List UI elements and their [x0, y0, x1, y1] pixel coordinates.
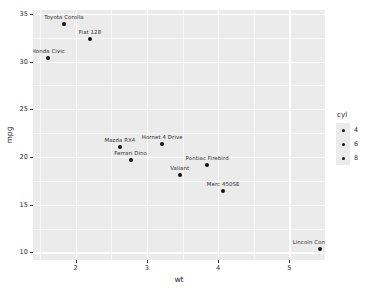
x-tick-label: 4	[216, 264, 220, 272]
data-point	[118, 145, 122, 149]
x-tick-mark	[218, 260, 219, 263]
gridline-major-y	[33, 157, 325, 158]
data-point	[62, 22, 66, 26]
data-point	[221, 189, 225, 193]
data-point	[318, 247, 322, 251]
y-tick-mark	[30, 109, 33, 110]
legend-dot-icon	[342, 129, 345, 132]
x-tick-mark	[76, 260, 77, 263]
legend-key-swatch	[336, 137, 350, 151]
x-tick-mark	[147, 260, 148, 263]
legend-entry-label: 6	[354, 140, 358, 148]
x-axis-title: wt	[33, 275, 325, 284]
data-point-label: Lincoln Continental	[293, 239, 325, 245]
y-axis-title: mpg	[5, 126, 14, 143]
plot-panel: Toyota CorollaFiat 128Honda CivicMazda R…	[33, 10, 325, 260]
data-point	[160, 142, 164, 146]
legend-dot-icon	[342, 143, 345, 146]
gridline-minor-x	[111, 10, 112, 260]
gridline-major-x	[218, 10, 219, 260]
legend-entry: 6	[336, 137, 358, 151]
x-tick-label: 3	[145, 264, 149, 272]
gridline-minor-x	[254, 10, 255, 260]
gridline-major-y	[33, 109, 325, 110]
legend-entry-label: 8	[354, 154, 358, 162]
y-tick-mark	[30, 14, 33, 15]
gridline-major-y	[33, 252, 325, 253]
legend-key-swatch	[336, 151, 350, 165]
data-point	[129, 158, 133, 162]
x-tick-label: 5	[287, 264, 291, 272]
y-tick-mark	[30, 205, 33, 206]
y-tick-label: 10	[20, 248, 28, 256]
y-tick-label: 30	[20, 58, 28, 66]
data-point	[205, 163, 209, 167]
legend-title: cyl	[336, 110, 358, 119]
legend-key-swatch	[336, 123, 350, 137]
data-point-label: Valiant	[170, 165, 189, 171]
y-tick-label: 20	[20, 153, 28, 161]
data-point-label: Ferrari Dino	[114, 150, 147, 156]
y-tick-mark	[30, 157, 33, 158]
data-point-label: Pontiac Firebird	[186, 155, 229, 161]
scatter-plot: Toyota CorollaFiat 128Honda CivicMazda R…	[0, 0, 377, 288]
data-point-label: Fiat 128	[79, 29, 101, 35]
legend: cyl 468	[336, 110, 358, 165]
x-tick-label: 2	[74, 264, 78, 272]
y-tick-label: 35	[20, 10, 28, 18]
gridline-major-y	[33, 62, 325, 63]
data-point-label: Merc 450SE	[207, 181, 240, 187]
legend-dot-icon	[342, 157, 345, 160]
data-point	[88, 37, 92, 41]
legend-entry-label: 4	[354, 126, 358, 134]
data-point-label: Mazda RX4	[104, 137, 135, 143]
y-tick-label: 25	[20, 105, 28, 113]
gridline-major-x	[289, 10, 290, 260]
data-point-label: Hornet 4 Drive	[142, 134, 183, 140]
data-point-label: Toyota Corolla	[44, 14, 83, 20]
gridline-major-y	[33, 205, 325, 206]
legend-entry: 8	[336, 151, 358, 165]
y-tick-mark	[30, 62, 33, 63]
legend-entries: 468	[336, 123, 358, 165]
gridline-major-x	[76, 10, 77, 260]
data-point	[46, 56, 50, 60]
data-point-label: Honda Civic	[33, 48, 65, 54]
legend-entry: 4	[336, 123, 358, 137]
x-tick-mark	[289, 260, 290, 263]
data-point	[178, 173, 182, 177]
y-tick-mark	[30, 252, 33, 253]
y-tick-label: 15	[20, 201, 28, 209]
